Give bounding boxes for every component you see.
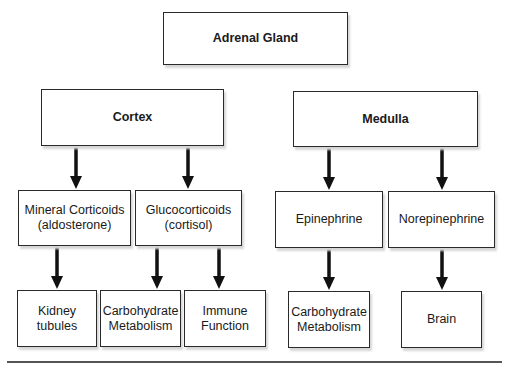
arrowhead-icon (51, 276, 63, 289)
arrowhead-icon (151, 276, 163, 289)
node-immune-function: Immune Function (184, 290, 266, 347)
node-norepinephrine: Norepinephrine (388, 191, 495, 248)
node-label: Carbohydrate Metabolism (291, 305, 367, 335)
bottom-divider (7, 361, 502, 363)
node-mineral-corticoids: Mineral Corticoids (aldosterone) (18, 190, 131, 246)
node-kidney-tubules: Kidney tubules (17, 290, 97, 347)
node-epinephrine: Epinephrine (275, 191, 383, 248)
node-glucocorticoids: Glucocorticoids (cortisol) (135, 190, 242, 246)
node-label: Mineral Corticoids (aldosterone) (24, 203, 124, 233)
arrowhead-icon (436, 277, 448, 290)
arrowhead-icon (213, 276, 225, 289)
node-medulla: Medulla (293, 91, 478, 147)
node-label: Immune Function (201, 304, 249, 334)
node-adrenal-gland: Adrenal Gland (163, 12, 348, 65)
node-label: Glucocorticoids (cortisol) (146, 203, 231, 233)
node-cortex: Cortex (41, 89, 224, 146)
arrowhead-icon (182, 176, 194, 189)
node-label: Epinephrine (296, 212, 363, 227)
node-label: Brain (427, 312, 456, 327)
node-label: Medulla (362, 112, 409, 127)
node-label: Carbohydrate Metabolism (103, 304, 179, 334)
node-label: Norepinephrine (399, 212, 484, 227)
arrowhead-icon (323, 277, 335, 290)
node-carbohydrate-metabolism-medulla: Carbohydrate Metabolism (288, 291, 370, 348)
node-label: Kidney tubules (37, 304, 77, 334)
arrowhead-icon (323, 177, 335, 190)
node-label: Cortex (113, 110, 153, 125)
arrowhead-icon (436, 177, 448, 190)
node-carbohydrate-metabolism-cortex: Carbohydrate Metabolism (100, 290, 181, 347)
arrowhead-icon (70, 176, 82, 189)
node-label: Adrenal Gland (213, 31, 298, 46)
node-brain: Brain (401, 291, 482, 348)
